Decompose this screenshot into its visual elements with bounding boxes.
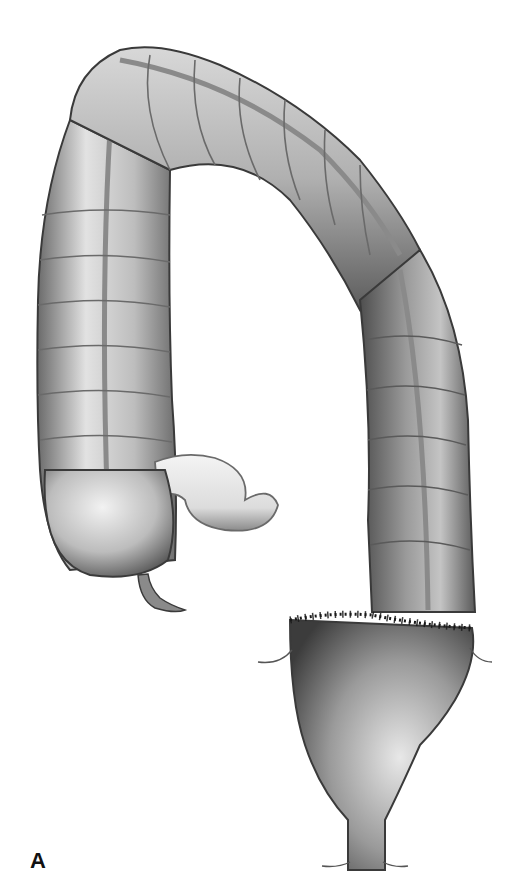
panel-label: A — [30, 848, 46, 874]
colon-illustration — [0, 0, 521, 896]
appendix — [138, 574, 185, 612]
descending-colon — [360, 250, 475, 612]
rectum — [290, 620, 473, 870]
